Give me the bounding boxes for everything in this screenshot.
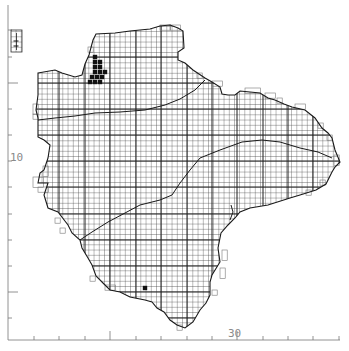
record-square [95,75,99,79]
record-square [93,80,97,84]
record-square [93,55,97,59]
record-square [98,70,102,74]
x-axis-ticks [34,331,339,340]
record-square [93,60,97,64]
record-square [98,60,102,64]
record-square [93,70,97,74]
record-square [98,80,102,84]
record-square [103,70,107,74]
lundy-inset [11,30,22,52]
distribution-map: 10 30 [0,0,349,351]
y-axis-label-10: 10 [10,151,23,164]
record-square [88,80,92,84]
x-axis-label-30: 30 [228,327,241,340]
record-square [93,65,97,69]
county-grid [0,0,349,351]
record-square [98,65,102,69]
record-square [143,286,147,290]
y-axis-ticks [8,30,18,318]
record-square [100,75,104,79]
record-square [90,75,94,79]
